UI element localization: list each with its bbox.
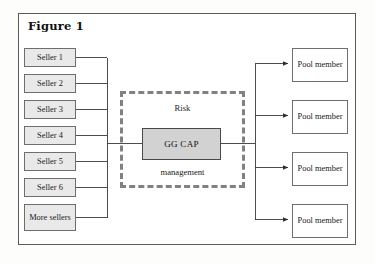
figure-container: Figure 1: [0, 0, 375, 264]
gg-cap-node: GG CAP: [142, 128, 221, 160]
pool-member-box: Pool member: [292, 100, 348, 134]
seller-box: Seller 2: [24, 74, 76, 93]
seller-box: Seller 5: [24, 152, 76, 171]
pool-member-box: Pool member: [292, 48, 348, 82]
pool-member-box: Pool member: [292, 152, 348, 186]
management-label: management: [120, 167, 245, 177]
seller-box: Seller 4: [24, 126, 76, 145]
risk-label: Risk: [120, 103, 245, 113]
seller-box: Seller 1: [24, 48, 76, 67]
seller-box: Seller 3: [24, 100, 76, 119]
pool-member-box: Pool member: [292, 204, 348, 238]
seller-box: Seller 6: [24, 178, 76, 197]
seller-box: More sellers: [24, 204, 76, 231]
figure-title: Figure 1: [28, 19, 84, 33]
